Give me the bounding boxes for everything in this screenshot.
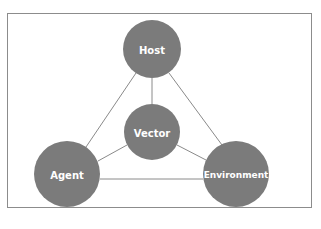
node-host: Host [123,20,181,78]
epidemiological-triangle-diagram: Host Vector Agent Environment [0,0,321,229]
node-label-environment: Environment [204,170,269,180]
node-vector: Vector [124,104,180,160]
edge-vector-agent [98,145,127,161]
node-agent: Agent [34,141,100,207]
node-label-host: Host [139,45,165,56]
node-environment: Environment [203,141,269,207]
node-label-vector: Vector [134,128,171,139]
node-label-agent: Agent [50,170,84,181]
edge-vector-environment [177,145,206,160]
